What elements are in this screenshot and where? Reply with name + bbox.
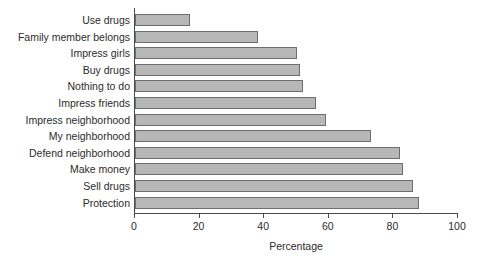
bar [135,147,400,159]
bar-row [135,180,413,192]
bar [135,163,403,175]
category-label: Defend neighborhood [0,147,130,159]
bar-row [135,31,258,43]
category-label: Protection [0,197,130,209]
bar-row [135,64,300,76]
bar [135,130,371,142]
bar [135,64,300,76]
bar-row [135,97,316,109]
bar [135,14,190,26]
bar-chart-figure: Use drugsFamily member belongsImpress gi… [0,0,491,264]
category-label: Use drugs [0,14,130,26]
x-axis-line [134,213,458,214]
bar-row [135,130,371,142]
x-axis-tick-label: 60 [313,220,343,232]
category-label: My neighborhood [0,130,130,142]
x-axis-tick-label: 40 [248,220,278,232]
bar-row [135,163,403,175]
bar [135,31,258,43]
x-axis-title: Percentage [134,240,458,252]
category-label: Sell drugs [0,180,130,192]
x-axis-tick-label: 0 [119,220,149,232]
category-label: Impress neighborhood [0,114,130,126]
category-label: Nothing to do [0,80,130,92]
x-axis-tick [392,213,393,218]
category-label: Make money [0,163,130,175]
category-label: Impress girls [0,47,130,59]
category-axis-labels: Use drugsFamily member belongsImpress gi… [0,8,130,213]
x-axis-tick [328,213,329,218]
category-label: Family member belongs [0,31,130,43]
bar [135,80,303,92]
bar-row [135,47,297,59]
x-axis-tick [263,213,264,218]
bar [135,180,413,192]
x-axis-tick-label: 100 [442,220,472,232]
bar-row [135,14,190,26]
bar-row [135,80,303,92]
x-axis-tick-label: 80 [377,220,407,232]
bar [135,114,326,126]
bar [135,97,316,109]
bar [135,197,419,209]
bar-row [135,147,400,159]
x-axis-tick [199,213,200,218]
bar [135,47,297,59]
category-label: Buy drugs [0,64,130,76]
bar-row [135,197,419,209]
bar-row [135,114,326,126]
x-axis-tick-label: 20 [184,220,214,232]
x-axis-tick [457,213,458,218]
x-axis-tick [134,213,135,218]
category-label: Impress friends [0,97,130,109]
plot-area: 020406080100 [134,8,457,213]
